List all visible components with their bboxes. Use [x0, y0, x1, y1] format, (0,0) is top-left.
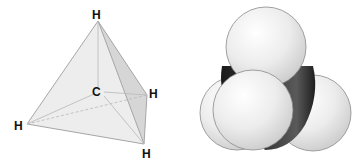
label-h-left: H: [14, 119, 23, 133]
methane-figure: H C H H H: [0, 0, 355, 165]
label-h-top: H: [92, 8, 101, 22]
label-h-bottom: H: [142, 147, 151, 161]
space-filling-model: [200, 7, 351, 151]
hydrogen-front: [213, 70, 293, 150]
label-h-right: H: [149, 87, 158, 101]
label-c-center: C: [92, 85, 101, 99]
tetrahedral-model: H C H H H: [14, 8, 158, 161]
